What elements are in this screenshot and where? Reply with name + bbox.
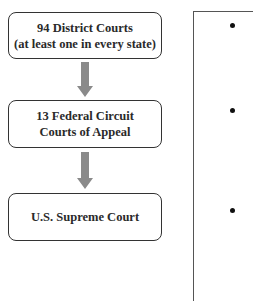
circuit-courts-subtitle: Courts of Appeal [40,124,131,140]
district-courts-box: 94 District Courts (at least one in ever… [8,12,162,59]
supreme-court-title: U.S. Supreme Court [31,209,139,225]
down-arrow-icon [77,152,93,189]
notes-panel [193,11,253,301]
bullet-icon [230,108,235,113]
down-arrow-icon [77,62,93,97]
circuit-courts-title: 13 Federal Circuit [36,108,134,124]
district-courts-subtitle: (at least one in every state) [14,36,156,52]
supreme-court-box: U.S. Supreme Court [8,193,162,241]
bullet-icon [230,23,235,28]
circuit-courts-box: 13 Federal Circuit Courts of Appeal [8,100,162,148]
district-courts-title: 94 District Courts [37,20,133,36]
bullet-icon [230,208,235,213]
